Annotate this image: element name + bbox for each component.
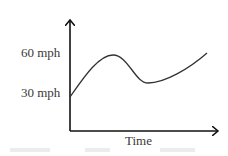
x-axis-label: Time xyxy=(125,133,152,149)
speed-time-graph xyxy=(0,0,228,156)
faded-strip xyxy=(10,148,50,152)
y-tick-label-30: 30 mph xyxy=(21,85,60,101)
faded-strip xyxy=(160,148,195,152)
faded-strip xyxy=(85,148,110,152)
y-tick-label-60: 60 mph xyxy=(21,45,60,61)
speed-curve xyxy=(70,53,207,97)
